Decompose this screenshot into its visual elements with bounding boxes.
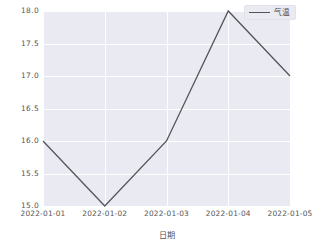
x-axis-tick-label: 2022-01-05 [250,209,316,218]
y-axis-tick-label: 16.5 [3,105,39,113]
grid-line-horizontal [43,206,290,207]
y-axis-tick-label: 15.5 [3,170,39,178]
y-axis-tick-label: 17.5 [3,40,39,48]
chart-figure: 15.015.516.016.517.017.518.0 2022-01-012… [0,0,316,249]
y-axis-tick-label: 16.0 [3,137,39,145]
chart-legend: 气温 [244,5,296,20]
plot-area [43,11,290,206]
legend-line-swatch-icon [249,12,270,13]
x-axis-title: 日期 [43,228,290,240]
series-line-group [43,11,290,206]
x-axis-tick-labels: 2022-01-012022-01-022022-01-032022-01-04… [43,209,290,221]
y-axis-tick-label: 18.0 [3,7,39,15]
series-line-qiwen [43,11,290,206]
y-axis-tick-labels: 15.015.516.016.517.017.518.0 [0,11,39,206]
grid-line-vertical [290,11,291,206]
y-axis-tick-label: 17.0 [3,72,39,80]
legend-label: 气温 [274,8,290,17]
